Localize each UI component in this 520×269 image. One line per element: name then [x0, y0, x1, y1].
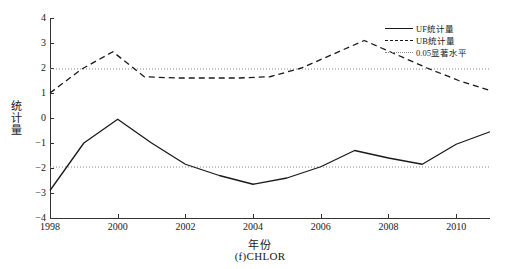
- legend-item: UF统计量: [385, 24, 507, 34]
- legend-label: UB统计量: [416, 37, 455, 46]
- chart-legend: UF统计量UB统计量0.05显著水平: [382, 22, 510, 62]
- x-tick-label: 2010: [446, 221, 466, 232]
- y-tick-label: 1: [16, 88, 46, 98]
- y-tick-label: −2: [16, 163, 46, 173]
- legend-item: UB统计量: [385, 36, 507, 46]
- legend-label: UF统计量: [416, 25, 454, 34]
- y-tick-label: −3: [16, 188, 46, 198]
- legend-line-swatch-solid: [385, 25, 413, 33]
- legend-line-swatch-dotted: [385, 49, 413, 57]
- x-axis-line: [50, 218, 490, 219]
- figure-caption: (f)CHLOR: [0, 250, 520, 262]
- series-line: [50, 119, 490, 190]
- legend-line-swatch-dashed: [385, 37, 413, 45]
- x-tick-label: 1998: [40, 221, 60, 232]
- y-tick-label: 0: [16, 113, 46, 123]
- x-tick-label: 2002: [175, 221, 195, 232]
- x-tick-label: 2000: [108, 221, 128, 232]
- x-tick-label: 2008: [378, 221, 398, 232]
- y-tick-label: 4: [16, 13, 46, 23]
- y-tick-label: −1: [16, 138, 46, 148]
- y-tick-label: 3: [16, 38, 46, 48]
- legend-label: 0.05显著水平: [416, 49, 467, 58]
- x-tick-label: 2006: [311, 221, 331, 232]
- x-tick-label: 2004: [243, 221, 263, 232]
- y-tick-label: 2: [16, 63, 46, 73]
- legend-item: 0.05显著水平: [385, 48, 507, 58]
- figure-container: 统计量 −4−3−2−101234 1998200020022004200620…: [0, 0, 520, 269]
- y-tick-mark: [50, 218, 54, 219]
